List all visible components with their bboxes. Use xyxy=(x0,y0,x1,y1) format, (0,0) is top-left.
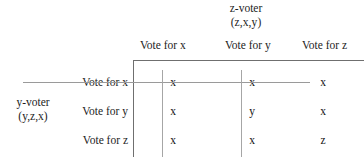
row-group-title: y-voter xyxy=(2,96,64,110)
column-group-preference: (z,x,y) xyxy=(186,16,306,30)
cell-r1-c2: x xyxy=(312,97,334,126)
row-header-vote-for-y: Vote for y xyxy=(58,97,128,126)
column-header-row: Vote for x Vote for y Vote for z xyxy=(133,38,364,54)
cell-r1-c0: x xyxy=(162,97,184,126)
cell-r1-c1: y xyxy=(241,97,263,126)
clipped-top-text xyxy=(2,0,36,4)
column-header-vote-for-z: Vote for z xyxy=(302,38,347,53)
cell-r2-c1: x xyxy=(241,126,263,155)
column-header-vote-for-y: Vote for y xyxy=(225,38,271,53)
row-group-preference: (y,z,x) xyxy=(2,110,64,124)
figure-root: z-voter (z,x,y) Vote for x Vote for y Vo… xyxy=(0,0,364,157)
column-group-title: z-voter xyxy=(186,2,306,16)
row-group-header: y-voter (y,z,x) xyxy=(2,96,64,123)
cell-r2-c0: x xyxy=(162,126,184,155)
column-strike-line-x xyxy=(162,70,163,157)
table-top-rule xyxy=(133,60,364,61)
column-group-header: z-voter (z,x,y) xyxy=(186,2,306,29)
row-header-vote-for-z: Vote for z xyxy=(58,126,128,155)
cell-r0-c2: x xyxy=(312,68,334,97)
row-strike-line xyxy=(23,82,310,83)
column-header-vote-for-x: Vote for x xyxy=(140,38,186,53)
column-strike-line-y xyxy=(241,70,242,157)
cell-r2-c2: z xyxy=(312,126,334,155)
